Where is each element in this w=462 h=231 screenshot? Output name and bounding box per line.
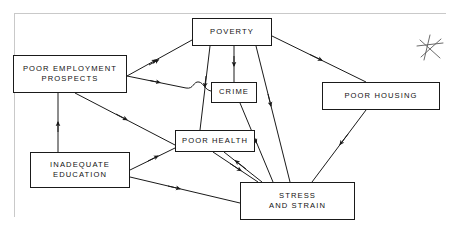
edge-education-to-stress xyxy=(130,177,240,203)
edge-poverty-to-stress xyxy=(256,46,290,182)
edge-employment-to-crime xyxy=(127,76,211,91)
node-poor-housing[interactable]: POOR HOUSING xyxy=(322,82,440,110)
node-poor-health[interactable]: POOR HEALTH xyxy=(175,130,255,152)
node-label: POOR HEALTH xyxy=(182,136,248,146)
diagram-canvas: POOR EMPLOYMENT PROSPECTS POVERTY CRIME … xyxy=(0,0,462,231)
edge-poor-health-to-stress xyxy=(213,152,258,182)
edge-employment-to-poor-health xyxy=(75,93,175,145)
edge-poverty-to-poor-health xyxy=(200,46,210,130)
edge-employment-to-poverty xyxy=(127,40,192,76)
node-poverty[interactable]: POVERTY xyxy=(192,18,272,46)
node-label: STRESS AND STRAIN xyxy=(269,191,326,212)
node-label: POOR EMPLOYMENT PROSPECTS xyxy=(23,64,117,85)
node-stress-and-strain[interactable]: STRESS AND STRAIN xyxy=(240,182,355,220)
node-label: POOR HOUSING xyxy=(344,91,417,101)
node-label: CRIME xyxy=(219,87,249,97)
edge-poverty-to-poor-housing xyxy=(272,36,366,82)
node-poor-employment-prospects[interactable]: POOR EMPLOYMENT PROSPECTS xyxy=(13,55,127,93)
node-inadequate-education[interactable]: INADEQUATE EDUCATION xyxy=(30,152,130,188)
edge-stress-to-poor-health xyxy=(224,152,262,182)
node-label: POVERTY xyxy=(210,27,254,37)
node-crime[interactable]: CRIME xyxy=(211,82,257,103)
node-label: INADEQUATE EDUCATION xyxy=(50,160,110,181)
edge-education-to-poor-health xyxy=(130,148,175,170)
star-icon xyxy=(417,35,443,60)
edge-poor-housing-to-stress xyxy=(312,110,366,182)
